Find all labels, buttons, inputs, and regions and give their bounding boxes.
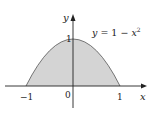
y-axis-arrow-icon — [71, 14, 76, 21]
y-axis-label: y — [62, 12, 69, 23]
x-axis-label: x — [140, 91, 146, 102]
x-tick-neg1: −1 — [20, 92, 33, 102]
function-label: y = 1 − x2 — [91, 26, 141, 38]
parabola-chart: y 1 y = 1 − x2 0 −1 1 x — [0, 0, 153, 115]
x-tick-1: 1 — [117, 92, 123, 102]
eq-mid: = 1 − — [97, 27, 131, 38]
origin-label: 0 — [65, 90, 71, 100]
eq-exp: 2 — [137, 26, 141, 33]
y-tick-1: 1 — [66, 34, 72, 44]
x-axis-arrow-icon — [141, 84, 147, 89]
